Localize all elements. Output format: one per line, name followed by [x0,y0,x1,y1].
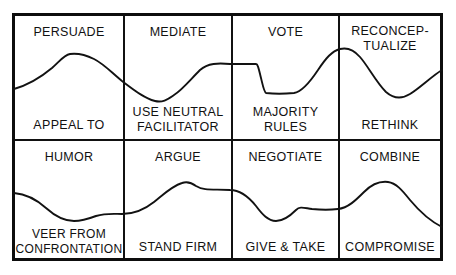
cell-negotiate-give-and-take[interactable]: NEGOTIATE GIVE & TAKE [233,141,338,261]
cell-bottom-label: MAJORITY RULES [233,105,338,135]
cell-bottom-label: GIVE & TAKE [233,240,338,255]
cell-bottom-label: APPEAL TO [15,118,123,133]
cell-top-label: ARGUE [125,150,231,165]
cell-reconceptualize-rethink[interactable]: RECONCEP- TUALIZE RETHINK [340,16,440,139]
cell-top-label: HUMOR [15,150,123,165]
cell-top-label: NEGOTIATE [233,150,338,165]
cell-humor-veer-from-confrontation[interactable]: HUMOR VEER FROM CONFRONTATION [15,141,123,261]
cell-top-label: RECONCEP- TUALIZE [340,24,440,54]
cell-argue-stand-firm[interactable]: ARGUE STAND FIRM [125,141,231,261]
cell-bottom-label: USE NEUTRAL FACILITATOR [125,105,231,135]
matrix-frame: PERSUADE APPEAL TO MEDIATE USE NEUTRAL F… [12,13,443,261]
conflict-strategies-diagram: PERSUADE APPEAL TO MEDIATE USE NEUTRAL F… [0,0,456,275]
cell-top-label: MEDIATE [125,25,231,40]
cell-bottom-label: STAND FIRM [125,240,231,255]
cell-combine-compromise[interactable]: COMBINE COMPROMISE [340,141,440,261]
cell-bottom-label: VEER FROM CONFRONTATION [15,227,123,257]
cell-bottom-label: COMPROMISE [340,240,440,255]
cell-persuade-appeal-to[interactable]: PERSUADE APPEAL TO [15,16,123,139]
cell-mediate-use-neutral-facilitator[interactable]: MEDIATE USE NEUTRAL FACILITATOR [125,16,231,139]
cell-bottom-label: RETHINK [340,118,440,133]
cell-top-label: VOTE [233,25,338,40]
cell-top-label: PERSUADE [15,25,123,40]
cell-vote-majority-rules[interactable]: VOTE MAJORITY RULES [233,16,338,139]
cell-top-label: COMBINE [340,150,440,165]
